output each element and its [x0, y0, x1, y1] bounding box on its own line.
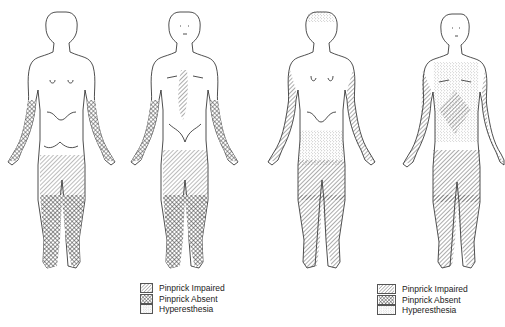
- stipple-swatch-icon: [377, 305, 396, 315]
- legend-label: Pinprick Absent: [402, 295, 461, 306]
- cross-hatch-swatch-icon: [140, 294, 153, 304]
- cross-hatch-swatch-icon: [377, 295, 396, 305]
- legend-item-pinprick-impaired: Pinprick Impaired: [140, 283, 225, 294]
- legend-label: Pinprick Absent: [159, 294, 218, 305]
- legend-item-pinprick-impaired: Pinprick Impaired: [377, 284, 468, 295]
- legend-item-hyperesthesia: Hyperesthesia: [140, 304, 225, 315]
- body-figure-anterior-a: [115, 0, 245, 275]
- stipple-swatch-icon: [140, 304, 153, 314]
- legend-label: Pinprick Impaired: [402, 284, 468, 295]
- legend-label: Pinprick Impaired: [159, 283, 225, 294]
- legend-right: Pinprick Impaired Pinprick Absent Hypere…: [377, 284, 468, 316]
- body-figure-posterior-b: [255, 0, 385, 275]
- legend-item-hyperesthesia: Hyperesthesia: [377, 305, 468, 316]
- body-figure-posterior-a: [0, 0, 130, 275]
- legend-item-pinprick-absent: Pinprick Absent: [140, 294, 225, 305]
- legend-label: Hyperesthesia: [159, 304, 213, 315]
- body-figure-anterior-b: [375, 0, 505, 275]
- diagonal-hatch-swatch-icon: [140, 283, 153, 293]
- diagonal-hatch-swatch-icon: [377, 284, 396, 294]
- legend-label: Hyperesthesia: [402, 305, 456, 316]
- legend-left: Pinprick Impaired Pinprick Absent Hypere…: [140, 283, 225, 315]
- legend-item-pinprick-absent: Pinprick Absent: [377, 295, 468, 306]
